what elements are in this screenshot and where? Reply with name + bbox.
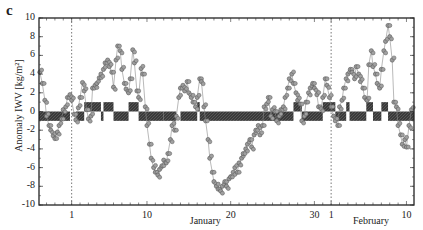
indicator-bar	[139, 112, 164, 121]
indicator-bar	[129, 102, 139, 111]
indicator-bar	[366, 102, 373, 111]
indicator-bar	[346, 102, 349, 111]
sign-indicator-bars	[39, 102, 414, 121]
indicator-bar	[101, 112, 104, 121]
indicator-bar	[350, 112, 367, 121]
indicator-bar	[103, 102, 113, 111]
indicator-bar	[373, 112, 381, 121]
indicator-bar	[180, 112, 197, 121]
indicator-bar	[381, 102, 388, 111]
plot-area	[0, 0, 423, 230]
indicator-bar	[113, 112, 128, 121]
